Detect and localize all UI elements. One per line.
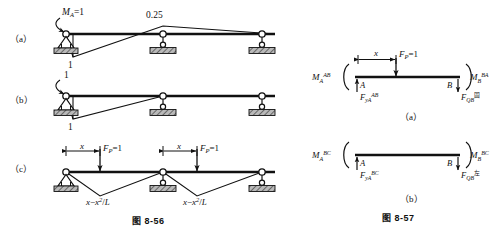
moment-leader-arrow-a xyxy=(56,18,64,32)
moment-arc-a-left xyxy=(344,64,349,90)
label-moment-fbd-b-left: MABC xyxy=(311,150,332,162)
row-label-b: （b） xyxy=(10,93,33,106)
figure-caption-8-57: 图 8-57 xyxy=(382,211,415,224)
beam-diagram-c xyxy=(54,146,275,196)
label-node-a-left: A xyxy=(359,80,366,90)
label-moment-fbd-a-left: MAAB xyxy=(311,72,331,84)
label-moment-a: MA=1 xyxy=(61,7,84,18)
label-moment-a-eq: =1 xyxy=(74,7,84,17)
label-load-c1: FP=1 xyxy=(102,143,122,154)
figure-page: MA=1 0.25 1 1 1 x x FP=1 FP=1 x−x2/L x−x… xyxy=(0,0,502,240)
label-reaction-a-left: FyAAB xyxy=(359,92,379,104)
row-label-a: （a） xyxy=(10,32,32,45)
label-load-fbd-a: FP=1 xyxy=(398,49,418,60)
label-node-b-right: B xyxy=(447,158,452,168)
label-moment-fbd-b-right: MBBC xyxy=(469,150,490,162)
figure-caption-8-56: 图 8-56 xyxy=(132,214,165,227)
label-ordinate-a: 1 xyxy=(68,60,73,70)
engineering-figure-canvas: MA=1 0.25 1 1 1 x x FP=1 FP=1 x−x2/L x−x… xyxy=(0,0,502,240)
label-ordinate-b: 1 xyxy=(68,122,73,132)
panel-label-a: （a） xyxy=(400,110,422,123)
beam-diagram-a xyxy=(54,18,275,57)
label-dim-x-c2: x xyxy=(176,141,181,151)
beam-diagram-b xyxy=(54,80,275,119)
moment-arc-b-left xyxy=(344,142,349,168)
influence-line-c-span2 xyxy=(163,172,262,196)
label-node-b-left: A xyxy=(359,158,366,168)
label-reaction-b-left: FyABC xyxy=(359,170,379,182)
label-unit-rotation-b: 1 xyxy=(64,70,69,80)
label-peak-value-a: 0.25 xyxy=(146,10,163,20)
label-dim-x-fbd-a: x xyxy=(373,48,378,58)
label-reaction-a-right: FQB固 xyxy=(460,92,480,104)
label-moment-fbd-a-right: MBBA xyxy=(469,72,489,84)
row-label-c: （c） xyxy=(10,162,32,175)
influence-line-c-span1 xyxy=(66,172,163,196)
label-load-c2: FP=1 xyxy=(199,143,219,154)
label-node-a-right: B xyxy=(447,80,452,90)
label-ordinate-c1: x−x2/L xyxy=(85,196,110,207)
label-ordinate-c2: x−x2/L xyxy=(182,196,207,207)
panel-label-b: （b） xyxy=(400,192,423,205)
moment-leader-arrow-b xyxy=(56,80,64,94)
label-reaction-b-right: FQB左 xyxy=(460,169,480,182)
label-dim-x-c1: x xyxy=(79,141,84,151)
